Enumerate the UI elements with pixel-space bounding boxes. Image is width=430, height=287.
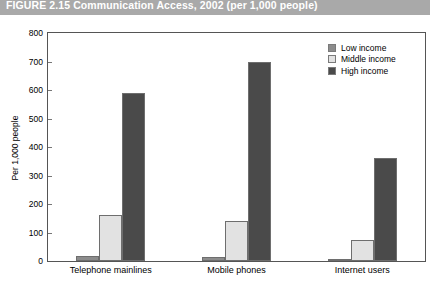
legend-item: Middle income xyxy=(328,54,396,66)
legend-swatch-icon xyxy=(328,67,336,75)
bar-group: Telephone mainlines xyxy=(48,33,174,261)
bar xyxy=(202,257,225,261)
chart-container: Per 1,000 people 01002003004005006007008… xyxy=(0,15,430,287)
y-axis-tick-label: 800 xyxy=(29,28,43,38)
chart-legend: Low incomeMiddle incomeHigh income xyxy=(328,42,396,77)
legend-label: Middle income xyxy=(341,55,396,64)
y-axis-tick-label: 600 xyxy=(29,85,43,95)
bar-group: Mobile phones xyxy=(174,33,300,261)
legend-item: High income xyxy=(328,65,396,77)
bar xyxy=(248,62,271,261)
legend-swatch-icon xyxy=(328,55,336,63)
y-axis-tick-label: 100 xyxy=(29,228,43,238)
figure-title: FIGURE 2.15 Communication Access, 2002 (… xyxy=(6,0,318,11)
legend-label: Low income xyxy=(341,44,386,53)
y-axis-tick-label: 300 xyxy=(29,171,43,181)
x-axis-category-label: Telephone mainlines xyxy=(48,265,174,275)
x-axis-category-label: Mobile phones xyxy=(174,265,300,275)
bar xyxy=(225,221,248,261)
y-axis-tick-label: 0 xyxy=(38,256,43,266)
figure-title-bar: FIGURE 2.15 Communication Access, 2002 (… xyxy=(0,0,430,15)
y-axis-tick-label: 400 xyxy=(29,142,43,152)
y-axis-tick-label: 700 xyxy=(29,57,43,67)
legend-swatch-icon xyxy=(328,44,336,52)
y-axis-tick-label: 500 xyxy=(29,114,43,124)
x-axis-category-label: Internet users xyxy=(299,265,425,275)
legend-item: Low income xyxy=(328,42,396,54)
legend-label: High income xyxy=(341,67,388,76)
bar xyxy=(374,158,397,261)
bar xyxy=(328,259,351,261)
bar xyxy=(76,256,99,261)
y-axis-tick-label: 200 xyxy=(29,199,43,209)
bar xyxy=(122,93,145,261)
y-axis-title: Per 1,000 people xyxy=(10,93,20,203)
bar xyxy=(99,215,122,261)
bar xyxy=(351,240,374,261)
